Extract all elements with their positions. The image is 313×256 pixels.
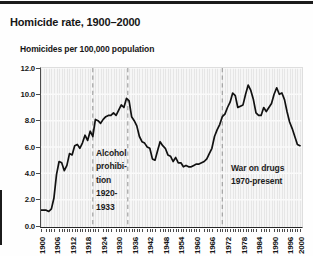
x-tick-label: 1906 <box>53 237 62 254</box>
homicide-rate-chart <box>41 68 302 226</box>
figure-page: Homicide rate, 1900–2000 Homicides per 1… <box>0 0 313 256</box>
x-tick-label: 1954 <box>177 237 186 254</box>
annotation-line: tion <box>96 174 127 187</box>
x-tick-label: 1990 <box>271 237 280 254</box>
y-tick-mark <box>36 226 40 227</box>
annotation-line: 1933 <box>96 201 127 214</box>
y-tick-label: 2.0 <box>12 195 35 204</box>
x-tick-label: 1942 <box>146 237 155 254</box>
y-tick-label: 8.0 <box>12 116 35 125</box>
x-tick-label: 1930 <box>115 237 124 254</box>
y-tick-mark <box>36 199 40 200</box>
annotation-war-on-drugs: War on drugs 1970-present <box>231 162 284 188</box>
x-tick-label: 1966 <box>208 237 217 254</box>
annotation-line: 1920- <box>96 187 127 200</box>
y-tick-mark <box>36 147 40 148</box>
x-tick-label: 1948 <box>162 237 171 254</box>
annotation-line: War on drugs <box>231 162 284 175</box>
x-tick-label: 1996 <box>286 237 295 254</box>
x-tick-label: 1918 <box>84 237 93 254</box>
x-tick-label: 1960 <box>193 237 202 254</box>
homicide-rate-curve <box>41 85 300 211</box>
y-axis-unit-label: Homicides per 100,000 population <box>20 44 154 54</box>
y-tick-label: 12.0 <box>12 64 35 73</box>
x-tick-label: 1900 <box>38 237 47 254</box>
x-tick-label: 1924 <box>100 237 109 254</box>
y-tick-label: 0.0 <box>12 222 35 231</box>
x-tick-label: 1978 <box>240 237 249 254</box>
x-tick-label: 1936 <box>131 237 140 254</box>
plot-area <box>40 67 303 228</box>
y-tick-label: 6.0 <box>12 143 35 152</box>
y-tick-mark <box>36 173 40 174</box>
left-page-edge-artifact <box>0 190 2 245</box>
y-tick-mark <box>36 120 40 121</box>
y-tick-mark <box>36 68 40 69</box>
x-tick-label: 1984 <box>255 237 264 254</box>
y-tick-mark <box>36 94 40 95</box>
y-tick-label: 4.0 <box>12 169 35 178</box>
x-tick-label: 1972 <box>224 237 233 254</box>
annotation-line: 1970-present <box>231 175 284 188</box>
annotation-line: Alcohol <box>96 147 127 160</box>
annotation-alcohol-prohibition: Alcohol prohibi- tion 1920- 1933 <box>96 147 127 214</box>
x-axis-minor-ticks <box>41 229 301 232</box>
chart-title: Homicide rate, 1900–2000 <box>10 16 140 28</box>
x-tick-label: 1912 <box>69 237 78 254</box>
annotation-line: prohibi- <box>96 160 127 173</box>
y-tick-label: 10.0 <box>12 90 35 99</box>
x-tick-label: 2000 <box>297 237 306 254</box>
top-rule-divider <box>0 1 313 4</box>
